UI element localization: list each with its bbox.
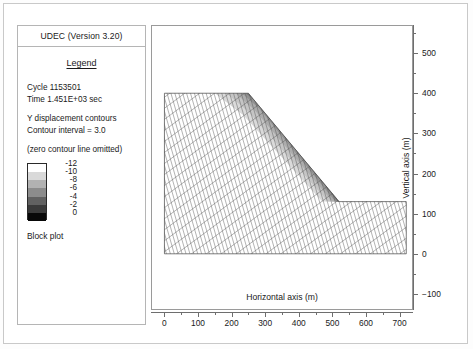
legend-contour-type: Y displacement contours <box>27 113 145 125</box>
colorbar-swatch--6 <box>28 188 46 196</box>
colorbar-labels: -12-10-8-6-4-20 <box>53 159 89 223</box>
y-tick-label-500: 500 <box>422 48 436 58</box>
legend-contour-interval: Contour interval = 3.0 <box>27 125 145 137</box>
tick-mark <box>413 294 418 295</box>
colorbar-swatch--10 <box>28 172 46 180</box>
y-tick-label-0: 0 <box>422 249 427 259</box>
colorbar-swatch--12 <box>28 164 46 172</box>
y-tick-label-400: 400 <box>422 88 436 98</box>
model-mesh-plot <box>152 26 412 309</box>
x-tick-label-100: 100 <box>191 318 205 328</box>
colorbar <box>27 163 47 220</box>
tick-mark <box>349 312 350 315</box>
colorbar-label-0: 0 <box>53 208 77 217</box>
tick-mark <box>413 214 418 215</box>
udec-plot-window: UDEC (Version 3.20) Legend Cycle 1153501… <box>0 0 473 349</box>
tick-mark <box>181 312 182 315</box>
tick-mark <box>198 312 199 317</box>
tick-mark <box>413 274 416 275</box>
tick-mark <box>413 113 416 114</box>
tick-mark <box>413 93 418 94</box>
tick-mark <box>413 174 418 175</box>
tick-mark <box>232 312 233 317</box>
legend-plot-type: Block plot <box>27 231 63 241</box>
tick-mark <box>413 53 418 54</box>
tick-mark <box>316 312 317 315</box>
x-tick-label-700: 700 <box>393 318 407 328</box>
tick-mark <box>299 312 300 317</box>
tick-mark <box>383 312 384 315</box>
tick-mark <box>413 73 416 74</box>
y-tick-label--100: −100 <box>422 289 441 299</box>
tick-mark <box>164 312 165 317</box>
legend-cycle: Cycle 1153501 <box>27 82 145 94</box>
x-tick-label-500: 500 <box>325 318 339 328</box>
tick-mark <box>332 312 333 317</box>
plot-frame <box>151 25 413 310</box>
legend-text-block: Cycle 1153501 Time 1.451E+03 sec Y displ… <box>27 82 145 164</box>
legend-heading: Legend <box>17 58 146 68</box>
tick-mark <box>366 312 367 317</box>
x-tick-label-0: 0 <box>162 318 167 328</box>
colorbar-swatch-0 <box>28 213 46 221</box>
legend-heading-text: Legend <box>66 58 96 68</box>
x-tick-label-300: 300 <box>258 318 272 328</box>
x-tick-label-600: 600 <box>359 318 373 328</box>
x-axis-title: Horizontal axis (m) <box>151 292 413 302</box>
colorbar-swatch--2 <box>28 205 46 213</box>
tick-mark <box>400 312 401 317</box>
y-tick-label-100: 100 <box>422 209 436 219</box>
app-title-box: UDEC (Version 3.20) <box>17 25 146 47</box>
legend-time: Time 1.451E+03 sec <box>27 94 145 106</box>
colorbar-group: -12-10-8-6-4-20 <box>27 163 127 223</box>
tick-mark <box>413 153 416 154</box>
tick-mark <box>413 254 418 255</box>
model-body <box>164 93 406 254</box>
tick-mark <box>215 312 216 315</box>
y-axis-title: Vertical axis (m) <box>401 137 411 198</box>
tick-mark <box>413 33 416 34</box>
tick-mark <box>413 133 418 134</box>
colorbar-swatch--8 <box>28 180 46 188</box>
tick-mark <box>265 312 266 317</box>
x-tick-label-400: 400 <box>292 318 306 328</box>
colorbar-swatch--4 <box>28 197 46 205</box>
x-tick-label-200: 200 <box>225 318 239 328</box>
tick-mark <box>413 194 416 195</box>
legend-zero-note: (zero contour line omitted) <box>27 144 145 156</box>
y-tick-label-300: 300 <box>422 128 436 138</box>
tick-mark <box>248 312 249 315</box>
tick-mark <box>413 234 416 235</box>
y-axis-line <box>413 25 414 310</box>
tick-mark <box>282 312 283 315</box>
app-title: UDEC (Version 3.20) <box>40 31 122 41</box>
y-tick-label-200: 200 <box>422 169 436 179</box>
